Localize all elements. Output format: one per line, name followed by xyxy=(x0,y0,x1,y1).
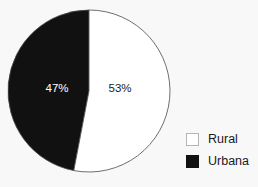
legend-swatch-urbana-icon xyxy=(186,155,199,168)
legend-label-urbana: Urbana xyxy=(208,155,249,168)
pie-chart: 47% 53% Rural Urbana xyxy=(0,0,258,187)
legend-item-urbana[interactable]: Urbana xyxy=(186,150,258,172)
legend-swatch-rural-icon xyxy=(186,133,199,146)
legend-label-rural: Rural xyxy=(208,133,238,146)
pie-slice-label-urbana: 47% xyxy=(45,82,68,94)
chart-legend: Rural Urbana xyxy=(186,128,258,172)
pie-slice-label-rural: 53% xyxy=(108,82,131,94)
legend-item-rural[interactable]: Rural xyxy=(186,128,258,150)
